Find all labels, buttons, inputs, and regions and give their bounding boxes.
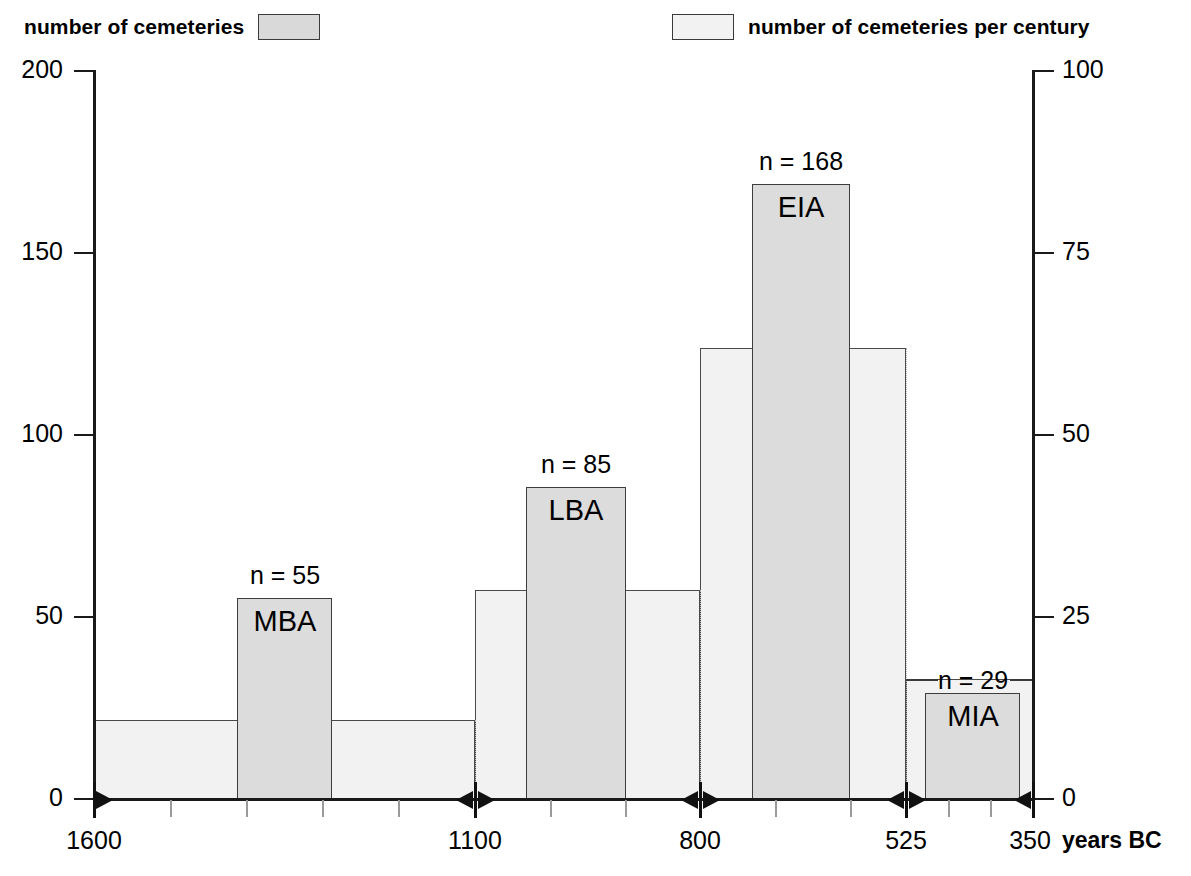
- tick-left-50: [74, 616, 94, 618]
- xtick-label-350: 350: [1009, 826, 1051, 855]
- arrow-right-525: [909, 791, 926, 809]
- arrow-right-1100: [478, 791, 495, 809]
- tick-label-right-50: 50: [1062, 421, 1090, 446]
- tick-label-left-50: 50: [35, 603, 63, 628]
- bar-label-mba-n: n = 55: [250, 561, 320, 590]
- plot-area: n = 55 MBA n = 85 LBA n = 168 EIA n = 29…: [0, 0, 1191, 876]
- arrow-left-350: [1014, 791, 1031, 809]
- bar-label-eia-n: n = 168: [759, 147, 843, 176]
- tick-right-25: [1034, 616, 1054, 618]
- tick-left-150: [74, 252, 94, 254]
- bar-eia: [752, 184, 850, 800]
- bar-label-mia-name: MIA: [947, 700, 999, 733]
- period-arrows: [0, 791, 1191, 808]
- arrow-left-800: [681, 791, 698, 809]
- x-axis-unit-label: years BC: [1062, 827, 1162, 854]
- bar-label-lba-name: LBA: [549, 494, 604, 527]
- bar-lba: [526, 487, 626, 800]
- tick-right-75: [1034, 252, 1054, 254]
- tick-left-100: [74, 434, 94, 436]
- tick-label-left-100: 100: [21, 421, 63, 446]
- bar-label-eia-name: EIA: [778, 191, 825, 224]
- xtick-label-525: 525: [885, 826, 927, 855]
- guide-800: [700, 590, 702, 800]
- tick-label-right-75: 75: [1062, 239, 1090, 264]
- tick-label-right-25: 25: [1062, 603, 1090, 628]
- tick-label-left-150: 150: [21, 239, 63, 264]
- arrow-left-525: [887, 791, 904, 809]
- arrow-left-1100: [456, 791, 473, 809]
- xtick-label-1600: 1600: [66, 826, 122, 855]
- y-axis-right: [1032, 70, 1035, 803]
- tick-label-right-100: 100: [1062, 57, 1104, 82]
- n29-rule-right: [1010, 679, 1033, 681]
- xtick-label-1100: 1100: [448, 826, 502, 855]
- tick-left-200: [74, 70, 94, 72]
- arrow-right-1600: [96, 791, 113, 809]
- guide-525: [906, 348, 908, 800]
- tick-right-50: [1034, 434, 1054, 436]
- xtick-label-800: 800: [679, 826, 721, 855]
- n29-rule-left: [906, 679, 938, 681]
- bar-label-mba-name: MBA: [254, 605, 317, 638]
- tick-label-left-200: 200: [21, 57, 63, 82]
- arrow-right-800: [703, 791, 720, 809]
- bar-label-mia-n: n = 29: [938, 666, 1008, 695]
- tick-right-100: [1034, 70, 1054, 72]
- bar-label-lba-n: n = 85: [541, 450, 611, 479]
- y-axis-left: [93, 70, 96, 803]
- chart-root: number of cemeteries number of cemeterie…: [0, 0, 1191, 876]
